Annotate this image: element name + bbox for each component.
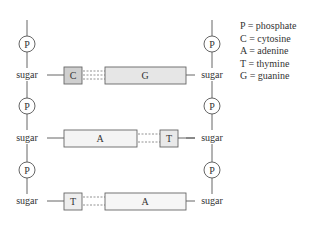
sugar-label: sugar bbox=[201, 195, 223, 206]
base-label: T bbox=[166, 133, 172, 144]
base-pair-t-a: T A bbox=[64, 193, 186, 210]
base-label: T bbox=[70, 196, 76, 207]
hydrogen-bonds bbox=[83, 197, 105, 205]
hydrogen-bonds bbox=[138, 134, 160, 142]
sugar-label: sugar bbox=[16, 69, 38, 80]
phosphate-circles bbox=[19, 36, 220, 178]
legend-item: P = phosphate bbox=[240, 20, 296, 33]
base-pair-c-g: C G bbox=[64, 67, 186, 84]
sugar-label: sugar bbox=[201, 132, 223, 143]
base-label: A bbox=[96, 133, 104, 144]
phosphate-label: P bbox=[209, 165, 215, 176]
base-label: G bbox=[141, 70, 148, 81]
legend-item: G = guanine bbox=[240, 70, 296, 83]
legend-item: C = cytosine bbox=[240, 33, 296, 46]
phosphate-label: P bbox=[209, 101, 215, 112]
sugar-label: sugar bbox=[16, 132, 38, 143]
hydrogen-bonds bbox=[83, 71, 105, 79]
sugar-label: sugar bbox=[16, 195, 38, 206]
phosphate-label: P bbox=[209, 39, 215, 50]
base-label: C bbox=[70, 70, 77, 81]
legend-item: T = thymine bbox=[240, 58, 296, 71]
phosphate-labels: P P P P P P bbox=[24, 39, 215, 176]
phosphate-label: P bbox=[24, 165, 30, 176]
base-pair-a-t: A T bbox=[64, 130, 195, 147]
base-label: A bbox=[141, 196, 149, 207]
legend: P = phosphate C = cytosine A = adenine T… bbox=[240, 20, 296, 83]
legend-item: A = adenine bbox=[240, 45, 296, 58]
sugar-label: sugar bbox=[201, 69, 223, 80]
phosphate-label: P bbox=[24, 101, 30, 112]
phosphate-label: P bbox=[24, 39, 30, 50]
